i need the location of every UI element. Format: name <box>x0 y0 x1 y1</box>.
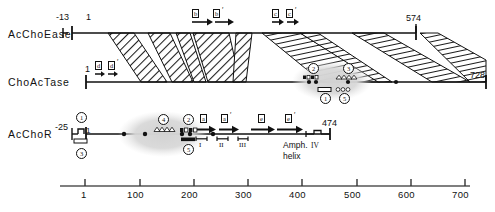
circled-marker-choactase-3: 3 <box>343 63 354 74</box>
prime-mark-a: ′ <box>230 111 231 118</box>
acchoease-bb-arrows <box>192 19 234 26</box>
axis-tick-700: 700 <box>452 189 469 200</box>
amph-helix-label-line1: Amph. <box>283 140 308 150</box>
amph-helix-label-line2: helix <box>283 151 300 161</box>
axis-tick-400: 400 <box>289 189 306 200</box>
roman-numeral-ii: II <box>219 141 224 149</box>
axis-tick-200: 200 <box>181 189 198 200</box>
boxed-symbol-d: d <box>95 61 102 70</box>
boxed-symbol-a-prime: a <box>221 114 228 123</box>
axis-tick-300: 300 <box>235 189 252 200</box>
acchor-one-label: 1 <box>86 126 90 135</box>
acchoease-one-label: 1 <box>86 12 91 22</box>
boxed-symbol-a: a <box>200 114 207 123</box>
acchor-start-label: -25 <box>55 122 68 132</box>
choactase-highlight-halo <box>292 61 372 101</box>
acchoease-cc-arrows <box>272 19 299 25</box>
boxed-symbol-c: c <box>272 9 279 18</box>
amph-helix-roman: IV <box>311 141 319 150</box>
prime-mark-c: ′ <box>295 6 296 13</box>
boxed-symbol-d-prime: d <box>108 61 115 70</box>
boxed-symbol-b-prime: b <box>213 9 220 18</box>
choactase-start-label: 1 <box>85 64 90 74</box>
axis-tick-500: 500 <box>344 189 361 200</box>
row-label-acchoease: AcChoEase <box>8 28 72 40</box>
circled-marker-acchor-4: 4 <box>158 114 169 125</box>
prime-mark-d: ′ <box>117 58 118 65</box>
acchoease-start-label: -13 <box>56 12 69 22</box>
residue-axis <box>60 179 470 186</box>
row-label-acchor: AcChoR <box>8 128 53 140</box>
circled-marker-acchor-3: 3 <box>76 148 87 159</box>
boxed-symbol-e: e <box>258 114 265 123</box>
circled-marker-acchor-1: 1 <box>76 112 87 123</box>
circled-marker-choactase-2: 2 <box>308 63 319 74</box>
choactase-dd-arrows <box>95 71 118 77</box>
axis-tick-1: 1 <box>81 189 87 200</box>
axis-tick-100: 100 <box>127 189 144 200</box>
roman-numeral-iii: III <box>239 141 246 149</box>
circled-marker-choactase-5: 5 <box>339 93 350 104</box>
boxed-symbol-b: b <box>192 9 199 18</box>
figure-canvas: AcChoEase ChoAcTase AcChoR -13 1 574 1 7… <box>0 0 495 212</box>
axis-tick-600: 600 <box>398 189 415 200</box>
roman-numeral-i: I <box>199 141 201 149</box>
row-label-choactase: ChoAcTase <box>8 76 70 88</box>
choactase-end-label: 728 <box>470 70 485 80</box>
prime-mark-b: ′ <box>222 6 223 13</box>
circled-marker-choactase-1: 1 <box>320 93 331 104</box>
boxed-symbol-c-prime: c <box>286 9 293 18</box>
acchoease-end-label: 574 <box>406 13 421 23</box>
circled-marker-acchor-5: 5 <box>183 144 194 155</box>
boxed-symbol-e-prime: e <box>285 114 292 123</box>
acchor-end-label: 474 <box>322 118 337 128</box>
circled-marker-acchor-2: 2 <box>183 114 194 125</box>
diagram-vector-layer <box>0 0 495 212</box>
prime-mark-e: ′ <box>294 111 295 118</box>
